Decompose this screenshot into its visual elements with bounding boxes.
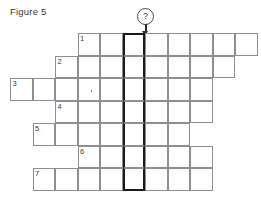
crossword-cell[interactable] bbox=[145, 146, 168, 169]
crossword-cell[interactable] bbox=[168, 78, 191, 101]
crossword-cell[interactable] bbox=[213, 56, 236, 79]
crossword-cell[interactable] bbox=[55, 123, 78, 146]
crossword-cell[interactable] bbox=[100, 78, 123, 101]
crossword-cell[interactable] bbox=[78, 123, 101, 146]
crossword-cell[interactable] bbox=[168, 56, 191, 79]
crossword-cell[interactable] bbox=[100, 168, 123, 191]
crossword-cell[interactable] bbox=[55, 78, 78, 101]
crossword-cell[interactable] bbox=[145, 78, 168, 101]
question-mark-arrow-marker: ? bbox=[134, 8, 160, 36]
crossword-cell-highlighted[interactable] bbox=[123, 146, 146, 169]
crossword-cell-highlighted[interactable] bbox=[123, 101, 146, 124]
crossword-cell[interactable] bbox=[100, 56, 123, 79]
crossword-cell[interactable] bbox=[190, 146, 213, 169]
crossword-cell-highlighted[interactable] bbox=[123, 168, 146, 191]
crossword-cell[interactable]: 4 bbox=[55, 101, 78, 124]
crossword-cell[interactable] bbox=[168, 123, 191, 146]
crossword-cell[interactable] bbox=[168, 33, 191, 56]
crossword-cell[interactable] bbox=[145, 33, 168, 56]
crossword-cell[interactable] bbox=[78, 56, 101, 79]
crossword-cell[interactable] bbox=[145, 168, 168, 191]
crossword-cell[interactable] bbox=[168, 146, 191, 169]
clue-number: 1 bbox=[80, 34, 84, 43]
crossword-cell[interactable] bbox=[100, 123, 123, 146]
crossword-cell[interactable] bbox=[213, 33, 236, 56]
crossword-cell-highlighted[interactable] bbox=[123, 78, 146, 101]
clue-number: 2 bbox=[58, 57, 62, 66]
crossword-cell[interactable]: 7 bbox=[33, 168, 56, 191]
crossword-cell[interactable] bbox=[78, 101, 101, 124]
crossword-cell[interactable] bbox=[100, 33, 123, 56]
crossword-cell[interactable] bbox=[235, 33, 258, 56]
crossword-cell[interactable]: 3 bbox=[10, 78, 33, 101]
clue-number: 5 bbox=[35, 124, 39, 133]
crossword-cell-highlighted[interactable] bbox=[123, 56, 146, 79]
crossword-cell[interactable] bbox=[190, 56, 213, 79]
crossword-cell[interactable] bbox=[168, 101, 191, 124]
crossword-cell[interactable] bbox=[55, 168, 78, 191]
crossword-cell-highlighted[interactable] bbox=[123, 33, 146, 56]
crossword-cell[interactable]: 6 bbox=[78, 146, 101, 169]
cell-mark bbox=[91, 90, 93, 92]
crossword-cell[interactable] bbox=[100, 146, 123, 169]
crossword-cell[interactable] bbox=[78, 78, 101, 101]
crossword-cell[interactable] bbox=[33, 78, 56, 101]
crossword-cell[interactable] bbox=[145, 123, 168, 146]
crossword-cell[interactable] bbox=[190, 168, 213, 191]
clue-number: 3 bbox=[13, 79, 17, 88]
question-mark-icon: ? bbox=[137, 8, 154, 25]
crossword-cell[interactable]: 2 bbox=[55, 56, 78, 79]
clue-number: 7 bbox=[35, 169, 39, 178]
crossword-cell[interactable] bbox=[168, 168, 191, 191]
crossword-cell[interactable] bbox=[190, 33, 213, 56]
crossword-cell[interactable] bbox=[190, 78, 213, 101]
crossword-grid: ? 1234567 bbox=[0, 0, 261, 220]
clue-number: 4 bbox=[58, 102, 62, 111]
crossword-cell[interactable] bbox=[190, 101, 213, 124]
crossword-cell[interactable]: 5 bbox=[33, 123, 56, 146]
crossword-cell[interactable] bbox=[100, 101, 123, 124]
crossword-cell-highlighted[interactable] bbox=[123, 123, 146, 146]
crossword-cell[interactable] bbox=[145, 101, 168, 124]
crossword-cell[interactable] bbox=[78, 168, 101, 191]
clue-number: 6 bbox=[80, 147, 84, 156]
crossword-cell[interactable] bbox=[145, 56, 168, 79]
crossword-cell[interactable]: 1 bbox=[78, 33, 101, 56]
